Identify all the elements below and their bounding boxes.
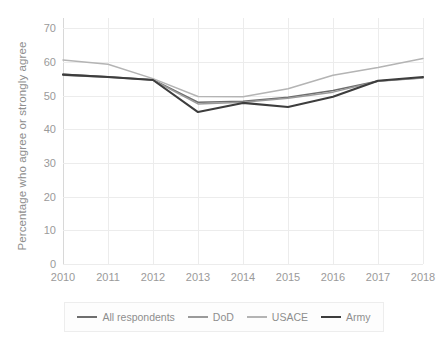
y-tick-label: 50 [44,90,56,102]
legend-swatch-icon [247,316,267,318]
legend-label: DoD [213,311,234,323]
chart-legend: All respondentsDoDUSACEArmy [64,302,384,332]
x-tick-label: 2015 [276,271,300,283]
line-chart: Percentage who agree or strongly agree 0… [0,0,441,351]
y-axis-label: Percentage who agree or strongly agree [16,16,28,276]
series-line [63,75,423,104]
legend-swatch-icon [77,316,97,318]
y-tick-label: 70 [44,22,56,34]
x-tick-label: 2016 [321,271,345,283]
legend-item[interactable]: USACE [247,311,308,323]
x-tick-label: 2012 [141,271,165,283]
gridline-vertical [423,18,424,264]
legend-label: USACE [272,311,308,323]
x-tick-label: 2014 [231,271,255,283]
legend-item[interactable]: All respondents [77,311,174,323]
legend-swatch-icon [188,316,208,318]
legend-item[interactable]: Army [321,311,371,323]
y-tick-label: 30 [44,157,56,169]
y-tick-label: 0 [50,258,56,270]
x-tick-label: 2010 [51,271,75,283]
y-tick-label: 40 [44,123,56,135]
y-tick-label: 60 [44,56,56,68]
legend-label: Army [346,311,371,323]
x-tick-label: 2018 [411,271,435,283]
legend-swatch-icon [321,316,341,318]
x-tick-label: 2011 [96,271,120,283]
legend-label: All respondents [102,311,174,323]
series-lines [63,18,423,264]
gridline-horizontal [63,264,423,265]
plot-area: 010203040506070 201020112012201320142015… [63,18,423,264]
y-tick-label: 20 [44,191,56,203]
x-tick-label: 2017 [366,271,390,283]
series-line [63,75,423,112]
legend-item[interactable]: DoD [188,311,234,323]
x-tick-label: 2013 [186,271,210,283]
y-tick-label: 10 [44,224,56,236]
